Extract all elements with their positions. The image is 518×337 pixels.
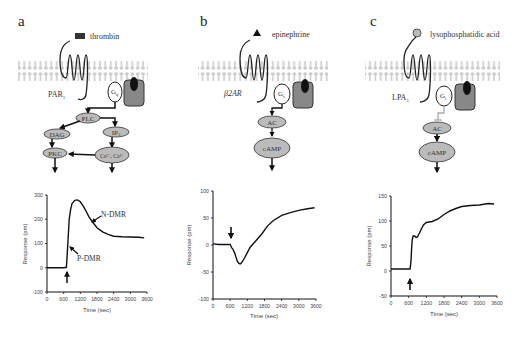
x-tick-label: 600 (226, 303, 235, 309)
node-camp-b-label: cAMP (263, 145, 281, 153)
lpa-ligand-icon (413, 29, 421, 37)
chart-c: -50050100150 060012001800240030003600 Ti… (366, 193, 503, 317)
node-ac-c-label: AC (432, 125, 442, 133)
figure: a thrombin PAR1 Gq PLC DAG IP3 PKC Ca²⁺,… (0, 0, 518, 337)
chart-b: -100-50050100 060012001800240030003600 T… (186, 188, 322, 319)
y-tick-label: 300 (34, 192, 43, 198)
x-tick-label: 3000 (125, 296, 137, 302)
panel-c: c lysophosphatidic acid LPA1 Gi AC cAMP (365, 13, 500, 172)
chart-c-line (391, 204, 494, 270)
x-tick-label: 3600 (310, 303, 322, 309)
y-tick-label: 0 (40, 265, 43, 271)
node-ca-label: Ca²⁺, Ca²⁺ (100, 153, 124, 159)
x-tick-label: 3600 (141, 296, 153, 302)
x-tick-label: 1200 (421, 300, 433, 306)
x-tick-label: 2400 (108, 296, 120, 302)
chart-b-line (213, 208, 315, 264)
chart-b-xlabel: Time (sec) (250, 313, 278, 319)
x-tick-label: 0 (390, 300, 393, 306)
x-tick-label: 600 (59, 296, 68, 302)
chart-a-ylabel: Response (pm) (22, 223, 28, 264)
n-dmr-label: N-DMR (101, 210, 126, 219)
node-plc-label: PLC (82, 115, 95, 123)
panel-label-a: a (18, 13, 25, 29)
y-tick-label: 100 (34, 240, 43, 246)
y-tick-label: 50 (381, 243, 387, 249)
node-pkc-label: PKC (48, 150, 62, 158)
chart-a: -1000100200300 060012001800240030003600 … (22, 192, 153, 313)
x-tick-label: 1800 (259, 303, 271, 309)
x-tick-label: 1800 (91, 296, 103, 302)
thrombin-ligand-icon (75, 33, 85, 39)
y-tick-label: 150 (378, 193, 387, 199)
inhibition-connector (438, 106, 444, 120)
gbg-dark-core-icon-b (301, 79, 309, 93)
y-tick-label: -50 (380, 293, 388, 299)
y-tick-label: 50 (203, 215, 209, 221)
x-tick-label: 2400 (456, 300, 468, 306)
panel-a: a thrombin PAR1 Gq PLC DAG IP3 PKC Ca²⁺,… (18, 13, 148, 172)
p-dmr-label: P-DMR (77, 254, 101, 263)
receptor-label-b: β2AR (223, 89, 242, 98)
ligand-label-b: epinephrine (272, 30, 310, 39)
y-tick-label: -100 (33, 289, 43, 295)
epinephrine-ligand-icon (253, 29, 261, 36)
y-tick-label: -50 (202, 269, 210, 275)
node-ac-b-label: AC (267, 119, 277, 127)
y-tick-label: 0 (206, 242, 209, 248)
y-tick-label: 200 (34, 216, 43, 222)
node-dag-label: DAG (49, 131, 64, 139)
x-tick-label: 0 (46, 296, 49, 302)
panel-label-c: c (370, 13, 377, 29)
chart-b-ylabel: Response (pm) (186, 224, 192, 265)
x-tick-label: 3000 (293, 303, 305, 309)
ligand-label-c: lysophosphatidic acid (430, 30, 500, 39)
gbg-dark-core-icon-c (463, 81, 471, 95)
membrane-c (365, 57, 500, 81)
chart-a-xlabel: Time (sec) (83, 307, 111, 313)
x-tick-label: 1800 (438, 300, 450, 306)
receptor-label-a: PAR1 (48, 90, 66, 100)
x-tick-label: 1200 (242, 303, 254, 309)
x-tick-label: 3000 (474, 300, 486, 306)
panel-label-b: b (200, 13, 208, 29)
x-tick-label: 3600 (491, 300, 503, 306)
chart-c-ylabel: Response (pm) (366, 225, 372, 266)
panel-b: b epinephrine β2AR Gs AC cAMP (198, 13, 328, 170)
x-tick-label: 600 (404, 300, 413, 306)
ligand-label-a: thrombin (90, 32, 119, 41)
x-tick-label: 1200 (75, 296, 87, 302)
chart-c-xlabel: Time (sec) (430, 311, 458, 317)
receptor-label-c: LPA1 (392, 93, 409, 103)
y-tick-label: 100 (378, 218, 387, 224)
x-tick-label: 0 (212, 303, 215, 309)
y-tick-label: 0 (384, 268, 387, 274)
node-camp-c-label: cAMP (428, 149, 446, 157)
x-tick-label: 2400 (276, 303, 288, 309)
y-tick-label: 100 (200, 188, 209, 194)
y-tick-label: -100 (199, 296, 209, 302)
gbg-dark-core-icon (130, 77, 138, 91)
